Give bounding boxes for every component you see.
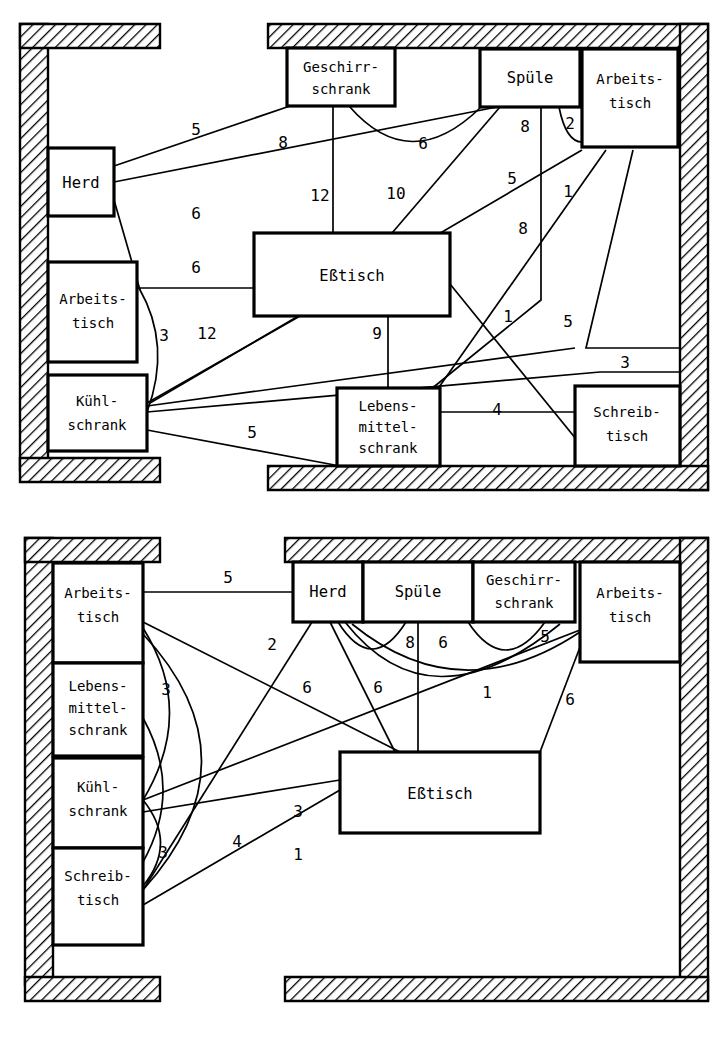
weight-label: 1 — [503, 307, 513, 326]
weight-label: 12 — [310, 186, 329, 205]
box-esstisch[interactable]: Eßtisch — [254, 233, 450, 316]
weight-label: 6 — [438, 633, 448, 652]
weight-label: 3 — [158, 843, 168, 862]
weight-label: 6 — [302, 678, 312, 697]
weight-label: 3 — [161, 680, 171, 699]
box-arbeitstisch-left[interactable]: Arbeits- tisch — [48, 262, 137, 362]
box-arbeitstisch-right-label-1: Arbeits- — [596, 585, 663, 601]
box-lebensmittelschrank-label-1: Lebens- — [358, 398, 417, 414]
weight-label: 1 — [293, 845, 303, 864]
link-arc-spuele-geschirr — [468, 622, 545, 650]
weight-label: 8 — [520, 117, 530, 136]
box-geschirrschrank-label-2: schrank — [311, 81, 371, 97]
box-spuele[interactable]: Spüle — [363, 562, 473, 622]
link-spuele-esstisch — [392, 107, 500, 233]
relation-lines-bottom — [143, 592, 585, 905]
floor-plan-svg-top: Herd Geschirr- schrank Spüle Arbeits- ti… — [0, 0, 728, 500]
box-kuehlschrank-label-1: Kühl- — [77, 779, 119, 795]
box-schreibtisch-label-2: tisch — [77, 892, 119, 908]
box-kuehlschrank[interactable]: Kühl- schrank — [53, 758, 143, 848]
box-schreibtisch-label-1: Schreib- — [64, 868, 131, 884]
box-schreibtisch-label-2: tisch — [606, 428, 648, 444]
box-arbeitstisch-right-label-1: Arbeits- — [596, 71, 663, 87]
link-herd-spuele — [114, 107, 497, 182]
box-esstisch[interactable]: Eßtisch — [340, 752, 540, 833]
weight-label: 9 — [372, 324, 382, 343]
box-spuele-label: Spüle — [507, 69, 554, 87]
floor-plan-panel-bottom: #plan-bot .wall { fill: url(#hatch2); } — [0, 515, 728, 1015]
weight-label: 2 — [565, 114, 575, 133]
weight-label: 6 — [191, 258, 201, 277]
wall-right — [680, 24, 708, 490]
box-herd[interactable]: Herd — [48, 148, 114, 216]
box-herd-label: Herd — [62, 174, 99, 192]
wall-top-left-segment — [25, 538, 160, 562]
link-kuehl-esstisch — [147, 316, 300, 403]
box-geschirrschrank[interactable]: Geschirr- schrank — [473, 562, 575, 622]
weight-label: 12 — [197, 324, 216, 343]
box-arbeitstisch-right[interactable]: Arbeits- tisch — [580, 562, 680, 662]
box-arbeitstisch-left-label-1: Arbeits- — [64, 585, 131, 601]
weight-label: 8 — [518, 219, 528, 238]
wall-top-left-segment — [20, 24, 160, 48]
box-kuehlschrank-label-1: Kühl- — [76, 393, 118, 409]
box-arbeitstisch-left-label-1: Arbeits- — [59, 291, 126, 307]
box-lebensmittelschrank[interactable]: Lebens- mittel- schrank — [53, 663, 143, 756]
wall-bottom-left-segment — [25, 977, 160, 1001]
link-arc-arbeitsl-schreib — [143, 634, 202, 890]
wall-left — [20, 24, 48, 470]
weight-label: 3 — [620, 353, 630, 372]
wall-left — [25, 538, 53, 985]
weight-label: 8 — [405, 633, 415, 652]
weight-label: 1 — [482, 683, 492, 702]
box-kuehlschrank-label-2: schrank — [67, 417, 127, 433]
wall-bottom-left-segment — [20, 458, 160, 482]
box-lebensmittelschrank[interactable]: Lebens- mittel- schrank — [337, 388, 440, 466]
box-kuehlschrank-label-2: schrank — [68, 803, 128, 819]
weight-label: 6 — [373, 678, 383, 697]
box-herd[interactable]: Herd — [293, 562, 363, 622]
weight-label: 1 — [563, 182, 573, 201]
wall-bottom-right-segment — [285, 977, 708, 1001]
weight-label: 8 — [278, 133, 288, 152]
furniture-boxes-bottom: Arbeits- tisch Lebens- mittel- schrank K… — [53, 562, 680, 945]
box-arbeitstisch-right[interactable]: Arbeits- tisch — [582, 49, 678, 147]
weight-label: 10 — [386, 184, 405, 203]
weight-label: 3 — [293, 802, 303, 821]
box-arbeitstisch-right-label-2: tisch — [609, 95, 651, 111]
box-schreibtisch[interactable]: Schreib- tisch — [53, 848, 143, 945]
box-lebensmittelschrank-label-2: mittel- — [358, 419, 417, 435]
weight-label: 5 — [191, 120, 201, 139]
wall-top-right-segment — [268, 24, 708, 48]
weight-label: 6 — [191, 204, 201, 223]
wall-bottom-right-segment — [268, 466, 708, 490]
box-lebensmittelschrank-label-1: Lebens- — [68, 678, 127, 694]
box-arbeitstisch-left[interactable]: Arbeits- tisch — [53, 563, 143, 663]
box-geschirrschrank-label-1: Geschirr- — [486, 572, 562, 588]
weight-label: 2 — [267, 635, 277, 654]
box-spuele-label: Spüle — [395, 583, 442, 601]
weight-label: 4 — [492, 400, 502, 419]
weight-label: 5 — [247, 423, 257, 442]
weight-label: 4 — [232, 832, 242, 851]
link-arc-herd-geschirr-outer — [345, 622, 560, 677]
box-spuele[interactable]: Spüle — [480, 49, 580, 107]
box-geschirrschrank-label-2: schrank — [494, 595, 554, 611]
box-schreibtisch[interactable]: Schreib- tisch — [575, 386, 680, 466]
box-geschirrschrank[interactable]: Geschirr- schrank — [287, 48, 395, 106]
wall-top-right-segment — [285, 538, 708, 562]
wall-right — [680, 538, 708, 1000]
box-lebensmittelschrank-label-3: schrank — [358, 440, 418, 456]
weight-label: 5 — [563, 312, 573, 331]
weight-label: 5 — [540, 627, 550, 646]
box-geschirrschrank-label-1: Geschirr- — [303, 59, 379, 75]
figure-page: Herd Geschirr- schrank Spüle Arbeits- ti… — [0, 0, 728, 1050]
floor-plan-panel-top: Herd Geschirr- schrank Spüle Arbeits- ti… — [0, 0, 728, 500]
box-arbeitstisch-left-label-2: tisch — [72, 315, 114, 331]
link-arc-arbeitsl-kuehl — [143, 628, 170, 800]
box-herd-label: Herd — [309, 583, 346, 601]
link-kuehl-lebensmittel — [147, 430, 340, 466]
link-herd-geschirr — [114, 106, 290, 166]
box-lebensmittelschrank-label-3: schrank — [68, 722, 128, 738]
box-kuehlschrank[interactable]: Kühl- schrank — [48, 375, 147, 451]
